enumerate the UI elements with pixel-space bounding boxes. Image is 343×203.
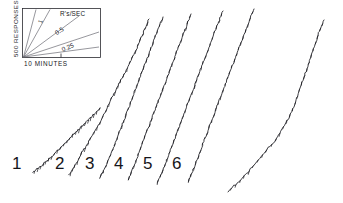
legend-y-axis-label: 500 RESPONSES	[13, 0, 19, 57]
curve-label-6: 6	[172, 155, 181, 172]
event-tick	[186, 29, 187, 31]
curve-label-4: 4	[114, 155, 123, 172]
legend-x-axis-label: 10 MINUTES	[24, 61, 68, 67]
event-tick	[158, 180, 159, 182]
event-tick	[156, 105, 157, 107]
curve-label-5: 5	[143, 155, 152, 172]
event-tick	[212, 38, 213, 40]
curve-label-1: 1	[12, 155, 21, 172]
rate-units-label: R's/SEC	[60, 11, 85, 17]
curve-label-2: 2	[55, 155, 64, 172]
curve-label-3: 3	[85, 155, 94, 172]
event-tick	[154, 112, 155, 114]
